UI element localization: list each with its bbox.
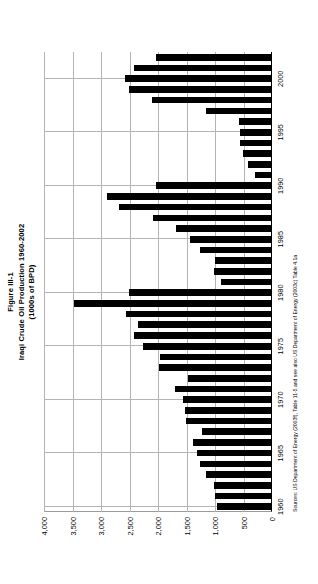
bar bbox=[183, 396, 272, 403]
bar bbox=[107, 193, 272, 200]
x-axis-tick-label: 1980 bbox=[276, 284, 285, 300]
y-axis-tick-label: 1,000 bbox=[211, 517, 220, 536]
bar bbox=[214, 482, 272, 489]
bar bbox=[138, 321, 272, 328]
bar bbox=[74, 300, 272, 307]
figure-page: Figure III-1 Iraqi Crude Oil Production … bbox=[0, 0, 318, 584]
x-axis-tick-label: 1970 bbox=[276, 391, 285, 407]
bar bbox=[134, 332, 272, 339]
bar bbox=[185, 407, 272, 414]
bar bbox=[188, 375, 272, 382]
bar bbox=[240, 129, 272, 136]
x-axis-tick-label: 1960 bbox=[276, 498, 285, 514]
bar bbox=[197, 450, 272, 457]
y-axis-tick-label: 4,000 bbox=[40, 517, 49, 536]
bar-series bbox=[44, 52, 272, 512]
bar bbox=[202, 428, 272, 435]
bar bbox=[248, 161, 272, 168]
plot-area: 05001,0001,5002,0002,5003,0003,5004,000 … bbox=[44, 52, 272, 512]
bar bbox=[190, 236, 272, 243]
x-axis-tick-label: 1975 bbox=[276, 338, 285, 354]
bar bbox=[217, 503, 272, 510]
bar bbox=[215, 493, 272, 500]
x-axis-tick-label: 2000 bbox=[276, 71, 285, 87]
bar bbox=[206, 108, 272, 115]
y-axis-tick-label: 1,500 bbox=[182, 517, 191, 536]
bar bbox=[126, 311, 272, 318]
y-axis-tick-label: 2,500 bbox=[125, 517, 134, 536]
bar bbox=[129, 86, 272, 93]
bar bbox=[255, 172, 272, 179]
bar bbox=[221, 279, 272, 286]
bar bbox=[153, 215, 272, 222]
bar bbox=[214, 268, 272, 275]
bar bbox=[143, 343, 272, 350]
bar bbox=[176, 225, 272, 232]
bar bbox=[159, 364, 272, 371]
y-axis-tick-label: 2,000 bbox=[154, 517, 163, 536]
bar bbox=[134, 65, 272, 72]
bar bbox=[175, 386, 272, 393]
source-note: Sources: US Department of Energy (2003f)… bbox=[292, 12, 298, 512]
x-axis-tick-label: 1985 bbox=[276, 231, 285, 247]
bar bbox=[215, 257, 272, 264]
chart-subtitle: (1000s of BPD) bbox=[27, 0, 38, 584]
y-axis-tick-label: 500 bbox=[239, 517, 248, 529]
chart-title: Iraqi Crude Oil Production 1960-2002 bbox=[17, 0, 28, 584]
bar bbox=[152, 97, 272, 104]
x-axis-tick-label: 1995 bbox=[276, 124, 285, 140]
y-axis-tick-label: 0 bbox=[268, 517, 277, 521]
bar bbox=[200, 461, 272, 468]
bar bbox=[206, 471, 272, 478]
bar bbox=[243, 150, 272, 157]
bar bbox=[186, 418, 272, 425]
x-axis-tick-label: 1965 bbox=[276, 445, 285, 461]
rotated-chart-stage: Figure III-1 Iraqi Crude Oil Production … bbox=[0, 0, 318, 584]
bar bbox=[156, 54, 272, 61]
bar bbox=[125, 75, 272, 82]
bar bbox=[239, 118, 272, 125]
x-axis-tick-label: 1990 bbox=[276, 178, 285, 194]
y-axis-tick-label: 3,000 bbox=[97, 517, 106, 536]
bar bbox=[240, 140, 272, 147]
bar bbox=[119, 204, 272, 211]
y-axis-tick-label: 3,500 bbox=[68, 517, 77, 536]
bar bbox=[160, 354, 272, 361]
bar bbox=[156, 182, 272, 189]
bar bbox=[193, 439, 272, 446]
bar bbox=[129, 289, 272, 296]
figure-number: Figure III-1 bbox=[6, 0, 17, 584]
bar bbox=[200, 247, 272, 254]
figure-title-block: Figure III-1 Iraqi Crude Oil Production … bbox=[6, 0, 38, 584]
